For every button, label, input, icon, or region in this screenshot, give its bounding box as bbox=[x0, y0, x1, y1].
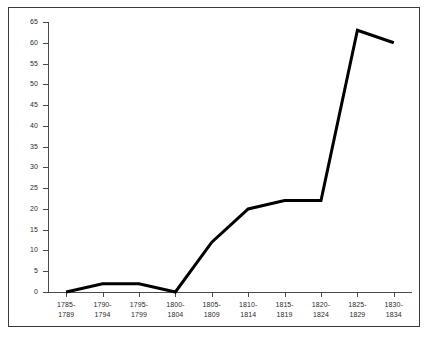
line-chart: 05101520253035404550556065 1785-17891790… bbox=[0, 0, 429, 341]
chart-page: 05101520253035404550556065 1785-17891790… bbox=[0, 0, 429, 341]
series-line-group bbox=[0, 0, 429, 341]
series-line bbox=[66, 30, 394, 292]
